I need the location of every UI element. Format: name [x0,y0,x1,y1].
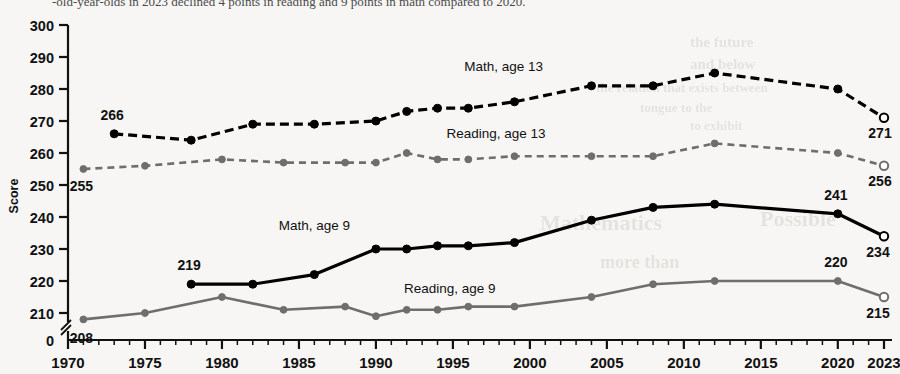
data-point [310,120,318,128]
y-axis-tick-label: 230 [30,242,54,258]
data-point-label: 255 [70,178,94,194]
data-point-label: 241 [824,187,848,203]
data-point [110,130,118,138]
y-axis-tick-label: 260 [30,146,54,162]
data-point [711,69,719,77]
data-point [511,303,518,310]
data-point [834,278,841,285]
data-point [834,210,842,218]
data-point [588,294,595,301]
data-point [650,153,657,160]
data-point-open [880,114,888,122]
x-axis-tick-label: 2010 [667,354,700,371]
data-point [587,82,595,90]
data-point [465,303,472,310]
data-point [464,104,472,112]
data-point [80,316,87,323]
data-point [219,156,226,163]
data-point-label: 219 [177,257,201,273]
data-point [310,271,318,279]
x-axis-tick-label: 2015 [744,354,777,371]
data-point [372,117,380,125]
y-axis-tick-label: 240 [30,210,54,226]
y-axis-tick-label: 250 [30,178,54,194]
data-point-open [880,232,888,240]
data-point-label: 266 [101,107,125,123]
x-axis-tick-label: 2023 [867,354,900,371]
x-axis-tick-label: 1975 [128,354,161,371]
data-point [434,306,441,313]
series-label: Math, age 13 [464,59,543,74]
data-point-label: 220 [824,254,848,270]
data-point [280,159,287,166]
data-point [142,310,149,317]
data-point [187,280,195,288]
data-point-open [880,293,888,301]
x-axis-tick-label: 1990 [359,354,392,371]
data-point [342,159,349,166]
series-label: Math, age 9 [279,218,350,233]
data-point [142,162,149,169]
data-point [588,153,595,160]
y-axis-title: Score [7,179,21,214]
data-point [650,281,657,288]
series-label: Reading, age 13 [446,126,545,141]
data-point-open [880,162,888,170]
data-point [373,159,380,166]
chart-page: -old-year-olds in 2023 declined 4 points… [0,0,900,374]
data-point-label: 234 [866,244,890,260]
y-axis-tick-label: 280 [30,82,54,98]
x-axis-tick-label: 1980 [205,354,238,371]
x-axis-tick-label: 1970 [51,354,84,371]
y-axis-tick-label: 220 [30,274,54,290]
data-point [510,239,518,247]
series-math-age-9 [187,200,888,288]
x-axis-tick-label: 1995 [436,354,469,371]
y-axis-zero-label: 0 [46,333,54,349]
x-axis-tick-label: 2000 [513,354,546,371]
y-axis-tick-label: 270 [30,114,54,130]
data-point [711,200,719,208]
data-point [249,280,257,288]
data-point-label: 271 [868,125,892,141]
data-point [434,156,441,163]
data-point [342,303,349,310]
line-chart: 2102202302402502602702802903000Score1970… [0,0,900,374]
data-point [834,150,841,157]
x-axis-tick-label: 2005 [590,354,623,371]
series-line [191,204,884,284]
data-point [649,203,657,211]
data-point [80,166,87,173]
data-point [403,150,410,157]
data-point [403,107,411,115]
data-point [280,306,287,313]
data-point [187,136,195,144]
series-label: Reading, age 9 [404,281,496,296]
data-point [403,306,410,313]
chart-axes: 2102202302402502602702802903000Score1970… [7,18,900,372]
series-line [83,143,884,169]
data-point [649,82,657,90]
series-reading-age-13 [80,140,888,172]
x-axis-tick-label: 1985 [282,354,315,371]
data-point-label: 256 [868,173,892,189]
data-point [372,245,380,253]
data-point [711,140,718,147]
data-point-label: 215 [866,305,890,321]
data-point-label: 208 [70,330,94,346]
data-point [510,98,518,106]
y-axis-tick-label: 210 [30,306,54,322]
data-point [434,242,442,250]
y-axis-tick-label: 290 [30,50,54,66]
data-point [834,85,842,93]
data-point [511,153,518,160]
data-point [249,120,257,128]
data-point [219,294,226,301]
data-point [587,216,595,224]
data-point [373,313,380,320]
data-point [464,242,472,250]
x-axis-tick-label: 2020 [821,354,854,371]
data-point [465,156,472,163]
y-axis-tick-label: 300 [30,18,54,34]
data-point [711,278,718,285]
